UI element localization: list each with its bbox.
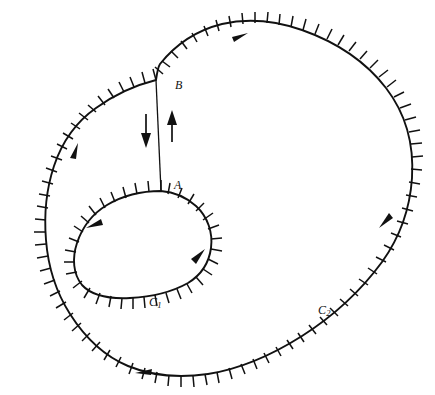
cross-cut-segment-ab <box>156 80 161 191</box>
cross-cut-group <box>141 80 177 191</box>
label-inner-curve-base: C <box>149 295 157 309</box>
direction-arrow-left-northeast <box>70 143 78 159</box>
up-arrowhead <box>167 110 177 125</box>
down-arrowhead <box>141 133 151 148</box>
inner-contour-direction-arrows <box>86 219 205 264</box>
direction-arrow-right-southwest <box>379 213 393 228</box>
label-outer-curve-base: C <box>318 303 326 317</box>
cut-flow-arrow-down <box>141 114 151 148</box>
label-point-a: A <box>174 179 181 191</box>
label-outer-curve-c2: C2 <box>318 304 331 318</box>
outer-contour-direction-arrows <box>70 33 393 375</box>
outer-contour-hatching <box>34 12 423 387</box>
cut-flow-arrow-up <box>167 110 177 142</box>
inner-contour-c1-path <box>74 191 211 298</box>
contour-diagram-figure: B A C1 C2 <box>0 0 435 395</box>
label-outer-curve-subscript: 2 <box>326 308 331 318</box>
outer-contour-group <box>34 12 423 387</box>
label-point-b: B <box>175 79 182 91</box>
direction-arrow-inner-northeast <box>191 249 205 264</box>
label-point-b-text: B <box>175 78 182 92</box>
inner-contour-group <box>64 180 222 309</box>
label-inner-curve-subscript: 1 <box>157 300 162 310</box>
label-point-a-text: A <box>174 178 181 192</box>
label-inner-curve-c1: C1 <box>149 296 162 310</box>
direction-arrow-top-east <box>232 33 248 42</box>
diagram-canvas <box>0 0 435 395</box>
